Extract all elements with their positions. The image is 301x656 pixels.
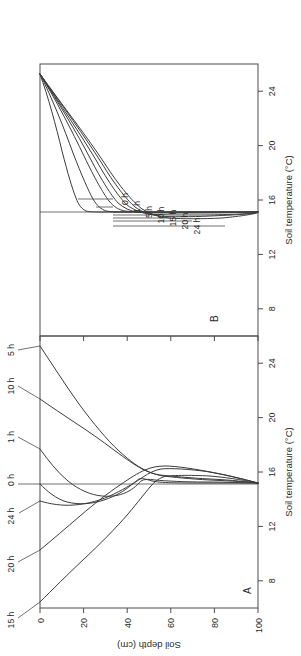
panel-a-letter: A — [242, 587, 253, 594]
panel-b-curve-0h — [40, 74, 258, 212]
panel-a-curve-15h — [40, 475, 258, 602]
panel-a-label-1h: 1 h — [6, 431, 16, 443]
panel-b-curve-10h — [40, 74, 258, 213]
panel-a-curve-10h — [40, 399, 258, 483]
panel-b-label-10h: 10 h — [156, 206, 166, 223]
ytick-20: 20 — [79, 618, 89, 628]
panel-a-curve-1h — [40, 449, 258, 496]
panel-b-xtick-16: 16 — [267, 195, 277, 205]
panel-b-xtick-24: 24 — [267, 86, 277, 96]
ytick-60: 60 — [166, 618, 176, 628]
panel-a-x-tick-labels: 8 12 16 20 24 — [267, 358, 277, 583]
panel-a-label-20h: 20 h — [6, 555, 16, 572]
panel-b-label-0h: 0 h — [120, 193, 130, 205]
panel-b-curve-24h — [40, 74, 258, 219]
panel-a-curve-5h — [40, 346, 258, 483]
panel-b-curves — [40, 74, 258, 219]
panel-b: 0 h 1 h 5 h 10 h 15 h 20 h 24 h B 8 12 1… — [40, 64, 294, 341]
panel-a-hour-labels: 5 h 10 h 1 h 0 h 24 h 20 h 15 h — [6, 344, 16, 629]
panel-b-label-24h: 24 h — [192, 217, 202, 234]
figure-canvas: 5 h 10 h 1 h 0 h 24 h 20 h 15 h A 8 12 — [0, 0, 301, 656]
panel-b-curve-1h — [40, 74, 258, 212]
panel-a-label-0h: 0 h — [6, 474, 16, 486]
panel-a-xtick-12: 12 — [267, 521, 277, 531]
ytick-40: 40 — [123, 618, 133, 628]
panel-b-label-20h: 20 h — [180, 212, 190, 229]
panel-b-curve-5h — [40, 74, 258, 212]
panel-a-label-15h: 15 h — [6, 611, 16, 628]
panel-b-xtick-20: 20 — [267, 141, 277, 151]
ytick-100: 100 — [254, 618, 264, 633]
panel-b-label-5h: 5 h — [144, 206, 154, 218]
panel-a-xtick-24: 24 — [267, 358, 277, 368]
panel-a-curve-24h — [40, 469, 258, 506]
panel-b-xtick-12: 12 — [267, 249, 277, 259]
panel-b-y-ticks — [40, 336, 258, 341]
panel-a-y-ticks — [40, 608, 258, 613]
panel-a-curve-20h — [40, 466, 258, 550]
panel-a: 5 h 10 h 1 h 0 h 24 h 20 h 15 h A 8 12 — [6, 336, 294, 628]
ytick-0: 0 — [36, 618, 46, 623]
panel-a-xtick-8: 8 — [267, 578, 277, 583]
panel-b-hour-labels: 0 h 1 h 5 h 10 h 15 h 20 h 24 h — [120, 193, 202, 235]
y-axis: 0 20 40 60 80 100 Soil depth (cm) — [36, 618, 264, 651]
panel-a-xtick-20: 20 — [267, 413, 277, 423]
rotated-figure-wrapper: 5 h 10 h 1 h 0 h 24 h 20 h 15 h A 8 12 — [0, 0, 301, 656]
panel-b-curve-20h — [40, 74, 258, 217]
panel-a-x-ticks — [258, 363, 263, 581]
panel-a-label-10h: 10 h — [6, 377, 16, 394]
panel-a-x-axis-label: Soil temperature (°C) — [283, 427, 294, 516]
panel-a-xtick-16: 16 — [267, 467, 277, 477]
panel-a-leader-lines — [18, 346, 40, 618]
soil-temperature-depth-chart: 5 h 10 h 1 h 0 h 24 h 20 h 15 h A 8 12 — [0, 0, 301, 656]
figure-page: 5 h 10 h 1 h 0 h 24 h 20 h 15 h A 8 12 — [0, 0, 301, 656]
panel-b-x-tick-labels: 8 12 16 20 24 — [267, 86, 277, 311]
panel-b-label-15h: 15 h — [168, 209, 178, 226]
panel-b-x-axis-label: Soil temperature (°C) — [283, 155, 294, 244]
panel-a-label-24h: 24 h — [6, 507, 16, 524]
panel-b-letter: B — [209, 315, 220, 322]
panel-a-curves — [40, 346, 258, 602]
panel-a-label-5h: 5 h — [6, 344, 16, 356]
ytick-80: 80 — [210, 618, 220, 628]
panel-b-xtick-8: 8 — [267, 306, 277, 311]
panel-b-label-1h: 1 h — [132, 201, 142, 213]
y-axis-label: Soil depth (cm) — [117, 640, 181, 651]
panel-b-curve-15h — [40, 74, 258, 215]
panel-b-frame — [40, 64, 258, 336]
panel-b-x-ticks — [258, 91, 263, 309]
y-tick-labels: 0 20 40 60 80 100 — [36, 618, 264, 633]
